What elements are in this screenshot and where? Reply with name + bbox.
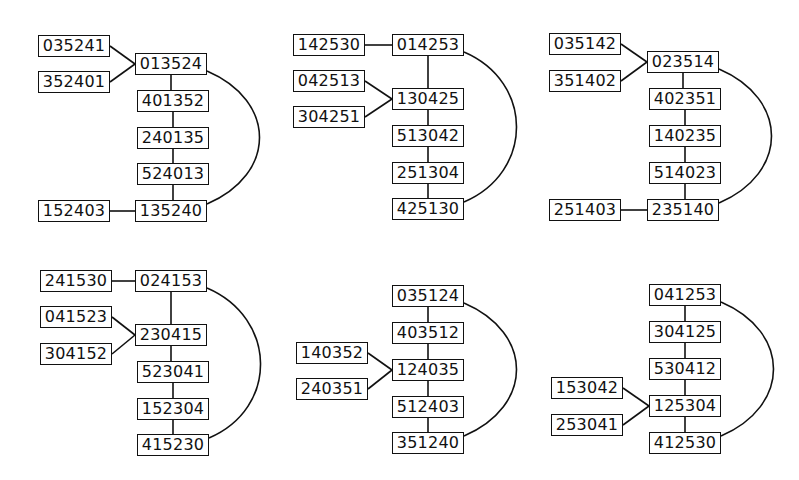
- edge: [365, 81, 392, 99]
- permutation-node: 251304: [392, 162, 464, 184]
- permutation-node: 351402: [549, 70, 621, 92]
- edge: [110, 46, 135, 64]
- arc-edge: [721, 302, 774, 436]
- permutation-node: 352401: [38, 71, 110, 93]
- permutation-node: 013524: [135, 53, 207, 75]
- edge: [623, 388, 649, 406]
- permutation-node: 152304: [137, 398, 209, 420]
- permutation-node: 035142: [549, 33, 621, 55]
- permutation-node: 142530: [293, 34, 365, 56]
- permutation-node: 524013: [137, 163, 209, 185]
- permutation-node: 235140: [647, 199, 719, 221]
- permutation-node: 125304: [649, 395, 721, 417]
- permutation-node: 153042: [551, 377, 623, 399]
- permutation-node: 035241: [38, 35, 110, 57]
- permutation-node: 240135: [137, 127, 209, 149]
- edge: [365, 99, 392, 117]
- permutation-node: 041523: [40, 306, 112, 328]
- edge: [623, 406, 649, 425]
- permutation-node: 425130: [392, 198, 464, 220]
- permutation-node: 304125: [649, 321, 721, 343]
- edge: [112, 335, 135, 354]
- permutation-node: 403512: [392, 322, 464, 344]
- permutation-node: 523041: [137, 361, 209, 383]
- permutation-node: 351240: [392, 432, 464, 454]
- arc-edge: [464, 52, 517, 202]
- edge: [368, 370, 392, 389]
- permutation-node: 304251: [293, 106, 365, 128]
- arc-edge: [207, 288, 261, 438]
- edge: [621, 62, 647, 81]
- edge: [621, 44, 647, 62]
- permutation-node: 402351: [649, 88, 721, 110]
- permutation-node: 140235: [649, 125, 721, 147]
- permutation-node: 251403: [549, 199, 621, 221]
- edge: [110, 64, 135, 82]
- permutation-node: 240351: [296, 378, 368, 400]
- permutation-node: 513042: [392, 125, 464, 147]
- edge: [368, 353, 392, 370]
- permutation-node: 415230: [137, 434, 209, 456]
- arc-edge: [207, 71, 260, 204]
- permutation-node: 304152: [40, 343, 112, 365]
- permutation-node: 514023: [649, 162, 721, 184]
- permutation-node: 042513: [293, 70, 365, 92]
- permutation-node: 035124: [392, 285, 464, 307]
- permutation-node: 412530: [649, 432, 721, 454]
- permutation-node: 014253: [392, 34, 464, 56]
- permutation-node: 253041: [551, 414, 623, 436]
- arc-edge: [464, 303, 517, 436]
- edge: [112, 317, 135, 335]
- permutation-node: 124035: [392, 359, 464, 381]
- permutation-node: 135240: [135, 200, 207, 222]
- permutation-node: 241530: [40, 270, 112, 292]
- permutation-node: 041253: [649, 284, 721, 306]
- permutation-node: 401352: [137, 90, 209, 112]
- permutation-node: 530412: [649, 358, 721, 380]
- permutation-node: 152403: [38, 200, 110, 222]
- permutation-node: 230415: [135, 324, 207, 346]
- permutation-node: 024153: [135, 270, 207, 292]
- permutation-node: 023514: [647, 51, 719, 73]
- permutation-node: 140352: [296, 342, 368, 364]
- permutation-node: 512403: [392, 396, 464, 418]
- permutation-node: 130425: [392, 88, 464, 110]
- arc-edge: [719, 69, 772, 203]
